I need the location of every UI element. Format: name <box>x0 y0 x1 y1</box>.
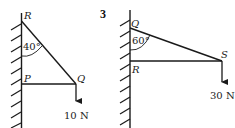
left-diagram: R 40° P Q 10 N <box>11 10 89 128</box>
diagram-canvas: R 40° P Q 10 N 3 Q 60° R <box>0 0 235 128</box>
label-r-right: R <box>131 64 140 75</box>
label-s: S <box>221 49 228 60</box>
label-q-left: Q <box>77 73 85 84</box>
label-r-left: R <box>23 10 32 21</box>
label-force-10n: 10 N <box>64 110 89 121</box>
label-p: P <box>23 73 31 84</box>
label-q-right: Q <box>131 18 139 29</box>
label-angle-40: 40° <box>23 41 41 52</box>
question-number: 3 <box>100 7 106 21</box>
right-wall-hatching <box>120 20 130 125</box>
right-diagram: Q 60° R S 30 N <box>120 10 235 128</box>
label-angle-60: 60° <box>132 35 150 46</box>
left-wall-hatching <box>11 24 21 128</box>
label-force-30n: 30 N <box>210 90 235 101</box>
